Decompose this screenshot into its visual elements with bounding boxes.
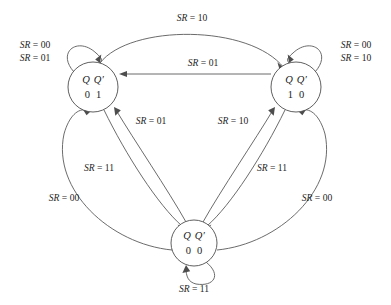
label-00-to-10-outer: SR = 00 (302, 192, 333, 203)
label-00-to-10-inner: SR = 10 (218, 115, 249, 126)
label-00-to-01-inner: SR = 01 (136, 115, 167, 126)
arrow-head-icon (119, 71, 127, 77)
edge-path (116, 110, 186, 222)
state-node-10[interactable]: QQ′ 10 (271, 62, 321, 112)
state-01-qprime-symbol: Q′ (94, 74, 105, 85)
state-00-qprime-value: 0 (197, 245, 202, 256)
state-10-qprime-value: 0 (299, 89, 304, 100)
state-10-q-symbol: Q (285, 74, 293, 85)
label-01-to-10-top: SR = 10 (177, 12, 208, 23)
arrow-head-icon (114, 107, 121, 116)
state-10-header: QQ′ (285, 74, 307, 85)
state-circle[interactable] (171, 220, 217, 266)
label-10-self-10: SR = 10 (341, 52, 372, 63)
state-node-01[interactable]: QQ′ 01 (68, 62, 118, 112)
state-00-q-value: 0 (186, 245, 191, 256)
label-00-self-11: SR = 11 (179, 283, 209, 294)
state-node-00[interactable]: QQ′ 00 (171, 220, 217, 266)
state-00-qprime-symbol: Q′ (195, 230, 206, 241)
state-01-qprime-value: 1 (96, 89, 101, 100)
edge-01-to-00-inner (104, 110, 185, 231)
edge-00-to-10-outer (217, 108, 327, 250)
state-circle[interactable] (68, 62, 118, 112)
state-diagram-figure: QQ′ 01 QQ′ 10 QQ′ 00 (0, 0, 391, 305)
label-10-self-00: SR = 00 (341, 39, 372, 50)
edge-10-to-01-mid (119, 71, 271, 77)
state-01-header: QQ′ (82, 74, 104, 85)
edge-00-to-01-outer (62, 108, 172, 250)
state-01-q-value: 0 (85, 89, 90, 100)
state-circle[interactable] (271, 62, 321, 112)
state-00-q-symbol: Q (183, 230, 191, 241)
state-00-header: QQ′ (183, 230, 205, 241)
edge-path (217, 110, 327, 250)
state-10-qprime-symbol: Q′ (297, 74, 308, 85)
label-00-to-01-outer: SR = 00 (49, 192, 80, 203)
state-01-q-symbol: Q (82, 74, 90, 85)
label-10-to-01-mid: SR = 01 (188, 57, 219, 68)
state-10-q-value: 1 (288, 89, 293, 100)
arrow-head-icon (182, 265, 190, 273)
label-10-to-00-inner: SR = 11 (257, 162, 287, 173)
edge-path (104, 110, 182, 226)
state-diagram-canvas: QQ′ 01 QQ′ 10 QQ′ 00 (0, 0, 391, 305)
label-01-self-01: SR = 01 (20, 52, 51, 63)
label-01-self-00: SR = 00 (20, 39, 51, 50)
edge-path (62, 110, 172, 250)
arrow-head-icon (268, 107, 275, 116)
label-01-to-00-inner: SR = 11 (84, 162, 114, 173)
